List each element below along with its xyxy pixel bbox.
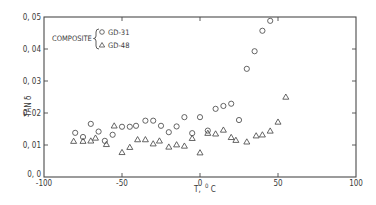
legend: COMPOSITE GD-31 GD-48 — [52, 28, 129, 50]
circle-marker-icon — [133, 123, 138, 128]
triangle-marker-icon — [156, 138, 162, 143]
data-series — [71, 18, 289, 155]
triangle-marker-icon — [127, 144, 133, 149]
legend-group-label: COMPOSITE — [52, 34, 92, 43]
triangle-marker-icon — [119, 149, 125, 154]
triangle-marker-icon — [181, 143, 187, 148]
circle-marker-icon — [197, 115, 202, 120]
circle-marker-icon — [88, 121, 93, 126]
circle-marker-icon — [158, 123, 163, 128]
circle-marker-icon — [229, 101, 234, 106]
triangle-marker-icon — [142, 137, 148, 142]
circle-marker-icon — [151, 118, 156, 123]
circle-marker-icon — [182, 115, 187, 120]
x-tick-label: 100 — [349, 179, 363, 188]
circle-marker-icon — [252, 49, 257, 54]
tan-delta-scatter-chart: -100-50050100 0, 00, 010, 020, 030, 040,… — [0, 0, 376, 205]
legend-brace — [94, 29, 100, 49]
triangle-marker-icon — [150, 141, 156, 146]
legend-triangle-marker-icon — [99, 43, 104, 48]
x-tick-label: -100 — [36, 179, 53, 188]
triangle-marker-icon — [283, 94, 289, 99]
series-gd-31 — [73, 18, 273, 143]
circle-marker-icon — [213, 106, 218, 111]
y-tick-label: 0, 03 — [23, 77, 41, 86]
circle-marker-icon — [110, 132, 115, 137]
legend-entry-gd31: GD-31 — [108, 28, 129, 37]
circle-marker-icon — [244, 66, 249, 71]
triangle-marker-icon — [135, 137, 141, 142]
triangle-marker-icon — [213, 131, 219, 136]
triangle-marker-icon — [259, 132, 265, 137]
circle-marker-icon — [96, 129, 101, 134]
x-tick-label: 50 — [273, 179, 283, 188]
triangle-marker-icon — [253, 133, 259, 138]
triangle-marker-icon — [197, 150, 203, 155]
y-tick-label: 0, 04 — [23, 45, 42, 54]
circle-marker-icon — [174, 124, 179, 129]
circle-marker-icon — [221, 103, 226, 108]
triangle-marker-icon — [111, 123, 117, 128]
legend-circle-marker-icon — [100, 30, 105, 35]
circle-marker-icon — [166, 130, 171, 135]
legend-entry-gd48: GD-48 — [108, 41, 129, 50]
triangle-marker-icon — [228, 134, 234, 139]
triangle-marker-icon — [267, 128, 273, 133]
triangle-marker-icon — [71, 138, 77, 143]
triangle-marker-icon — [275, 119, 281, 124]
circle-marker-icon — [260, 28, 265, 33]
triangle-marker-icon — [92, 135, 98, 140]
triangle-marker-icon — [174, 142, 180, 147]
circle-marker-icon — [119, 124, 124, 129]
circle-marker-icon — [236, 117, 241, 122]
x-tick-label: -50 — [116, 179, 128, 188]
circle-marker-icon — [268, 18, 273, 23]
triangle-marker-icon — [244, 139, 250, 144]
triangle-marker-icon — [103, 141, 109, 146]
x-axis-label: T, 0 C — [193, 181, 216, 194]
series-gd-48 — [71, 94, 289, 155]
triangle-marker-icon — [166, 144, 172, 149]
y-tick-label: 0, 0 — [27, 170, 41, 179]
circle-marker-icon — [127, 124, 132, 129]
y-axis-label: TAN δ — [24, 95, 33, 117]
circle-marker-icon — [143, 118, 148, 123]
y-tick-label: 0, 01 — [23, 141, 41, 150]
y-tick-label: 0, 05 — [23, 13, 41, 22]
triangle-marker-icon — [220, 127, 226, 132]
circle-marker-icon — [73, 130, 78, 135]
triangle-marker-icon — [189, 135, 195, 140]
